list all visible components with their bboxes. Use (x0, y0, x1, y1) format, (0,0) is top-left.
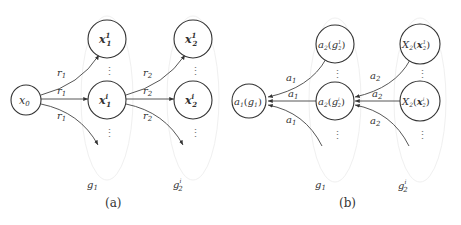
panel-a-caption: (a) (105, 196, 122, 210)
edge-label-a1-mid: a1 (288, 88, 298, 101)
node-x1-top-label: x11 (98, 31, 111, 48)
group-label-g1-b: g1 (315, 179, 326, 192)
diagram-canvas: x0 x11 xi1 x12 xi2 ⋮ ⋮ ⋮ ⋮ r1 r1 r1 r2 r… (0, 0, 461, 225)
ellipsis-col2-lower: ⋮ (190, 127, 201, 140)
edge-x0-to-g1-below (41, 104, 98, 145)
edge-label-r1-mid: r1 (57, 85, 66, 98)
ellipsis-col2-upper: ⋮ (190, 65, 201, 78)
ellipsis-b-col2-lower: ⋮ (417, 129, 428, 142)
edge-below-to-a2 (355, 105, 409, 146)
panel-a: x0 x11 xi1 x12 xi2 ⋮ ⋮ ⋮ ⋮ r1 r1 r1 r2 r… (11, 16, 219, 210)
node-a2-g2-mid-label: a2(gi2) (318, 96, 345, 108)
node-a2-g2-top-label: a2(g12) (318, 39, 345, 51)
edge-label-r1-top: r1 (57, 67, 66, 80)
edge-label-r2-top: r2 (143, 67, 153, 80)
ellipsis-b-col2-upper: ⋮ (417, 68, 428, 81)
node-X2-x2-top-label: X2(x12) (401, 39, 430, 51)
edge-label-a1-bottom: a1 (286, 114, 296, 127)
group-label-g2i: gi2 (173, 177, 183, 193)
edge-label-r2-bottom: r2 (143, 110, 153, 123)
ellipsis-col1-lower: ⋮ (104, 127, 115, 140)
edge-a2top-to-a1 (268, 59, 326, 97)
edge-X2top-to-a2 (355, 60, 410, 97)
ellipsis-col1-upper: ⋮ (104, 65, 115, 78)
node-X2-x2-mid-label: X2(xi2) (401, 96, 430, 108)
edge-label-a1-top: a1 (286, 72, 296, 85)
node-a1-g1-label: a1(g1) (234, 96, 262, 108)
edge-label-a2-bottom: a2 (370, 115, 381, 128)
edge-x0-to-x1-top (41, 55, 99, 95)
group-label-g1: g1 (87, 179, 98, 192)
edge-label-a2-mid: a2 (372, 88, 383, 101)
ellipsis-b-col1-lower: ⋮ (332, 129, 343, 142)
group-label-g2i-b: gi2 (398, 178, 408, 194)
edge-x1-to-g2-below (126, 104, 183, 145)
panel-b-caption: (b) (339, 196, 356, 210)
edge-x1-to-x2-top (126, 55, 185, 95)
edge-label-a2-top: a2 (370, 70, 381, 83)
node-x2-top-label: x12 (184, 31, 197, 48)
panel-b: a1(g1) a2(g12) a2(gi2) X2(x12) X2(xi2) ⋮… (232, 18, 446, 210)
ellipsis-b-col1-upper: ⋮ (332, 68, 343, 81)
